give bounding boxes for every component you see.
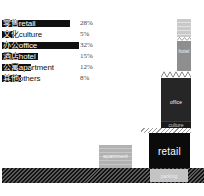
legend-row-retail: 零售retail 零售retail 28% xyxy=(0,20,100,27)
legend-bar: 公寓apartment xyxy=(2,64,31,71)
legend-percent: 32% xyxy=(80,41,93,50)
block-label: apartment xyxy=(99,153,132,159)
legend-percent: 5% xyxy=(80,30,89,39)
block-label: parking xyxy=(150,173,188,179)
block-office: office xyxy=(161,78,191,121)
legend-percent: 15% xyxy=(80,52,93,61)
legend-bar: 办公office xyxy=(2,42,79,49)
legend-bar: 酒店hotel xyxy=(2,53,38,60)
legend-label-inverse: 办公office xyxy=(3,42,37,49)
block-others xyxy=(177,19,191,37)
legend-bar: 其他others xyxy=(2,75,21,82)
block-label: retail xyxy=(149,146,190,157)
legend-row-culture: 文化culture 文化culture 5% xyxy=(0,31,100,38)
legend-label-inverse: 零售retail xyxy=(3,20,36,27)
truss-band-middle xyxy=(161,71,191,78)
legend-row-others: 其他others 其他others 8% xyxy=(0,75,100,82)
block-hotel: hotel xyxy=(177,41,191,71)
legend-bar: 零售retail xyxy=(2,20,70,27)
legend-row-hotel: 酒店hotel 酒店hotel 15% xyxy=(0,53,100,60)
legend-percent: 12% xyxy=(80,63,93,72)
legend-row-apartment: 公寓apartment 公寓apartment 12% xyxy=(0,64,100,71)
program-legend: 零售retail 零售retail 28% 文化culture 文化cultur… xyxy=(0,0,100,90)
legend-percent: 8% xyxy=(80,74,89,83)
legend-label-inverse: 公寓apartment xyxy=(3,64,31,71)
block-label: office xyxy=(161,99,191,105)
legend-bar: 文化culture xyxy=(2,31,14,38)
legend-label-inverse: 文化culture xyxy=(3,31,14,38)
legend-percent: 28% xyxy=(80,19,93,28)
block-label: hotel xyxy=(177,48,191,54)
legend-label-inverse: 其他others xyxy=(3,75,21,82)
block-retail: retail xyxy=(149,133,190,168)
block-culture: culture xyxy=(161,121,191,128)
legend-row-office: 办公office 办公office 32% xyxy=(0,42,100,49)
legend-label-inverse: 酒店hotel xyxy=(3,53,36,60)
block-apartment: apartment xyxy=(99,145,132,168)
block-parking: parking xyxy=(150,169,188,182)
